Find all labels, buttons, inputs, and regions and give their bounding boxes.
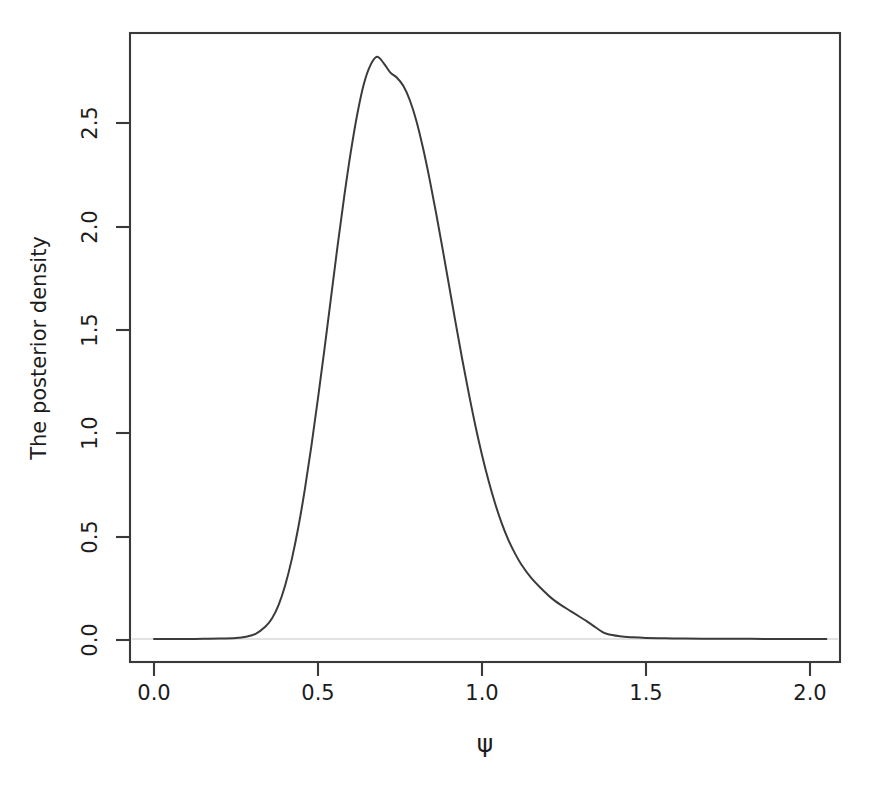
density-curve [154,57,826,639]
x-tick-label-1: 0.5 [301,681,334,705]
x-axis-ticks [154,662,810,676]
y-tick-label-3: 1.5 [78,313,102,346]
y-tick-label-1: 0.5 [78,520,102,553]
x-axis-title: ψ [477,729,494,758]
y-tick-label-2: 1.0 [78,416,102,449]
plot-frame [130,33,840,662]
y-axis-tick-labels: 0.0 0.5 1.0 1.5 2.0 2.5 [78,106,102,656]
x-tick-label-3: 1.5 [629,681,662,705]
y-axis-ticks [116,123,130,640]
y-tick-label-5: 2.5 [78,106,102,139]
x-axis-tick-labels: 0.0 0.5 1.0 1.5 2.0 [137,681,826,705]
figure-container: 0.0 0.5 1.0 1.5 2.0 0.0 0.5 1.0 1.5 2.0 … [0,0,875,786]
x-tick-label-4: 2.0 [793,681,826,705]
y-tick-label-4: 2.0 [78,210,102,243]
x-tick-label-0: 0.0 [137,681,170,705]
y-axis-title: The posterior density [27,236,51,461]
y-tick-label-0: 0.0 [78,623,102,656]
x-tick-label-2: 1.0 [465,681,498,705]
posterior-density-plot: 0.0 0.5 1.0 1.5 2.0 0.0 0.5 1.0 1.5 2.0 … [0,0,875,786]
